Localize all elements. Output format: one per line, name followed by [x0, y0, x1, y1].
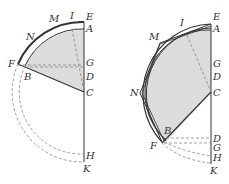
label-E: E [212, 11, 221, 22]
right-figure: E A G D C D G H K F B N M I [129, 11, 222, 176]
label-M: M [148, 31, 160, 42]
label-G: G [213, 58, 221, 69]
label-I: I [179, 17, 185, 28]
label-B: B [163, 125, 171, 136]
label-D: D [85, 71, 94, 82]
label-G: G [86, 57, 94, 68]
label-N: N [25, 31, 36, 42]
label-K: K [209, 165, 218, 176]
label-F: F [149, 140, 158, 151]
label-C: C [86, 87, 94, 98]
label-H: H [85, 150, 95, 161]
label-C: C [213, 87, 221, 98]
label-K: K [82, 163, 91, 174]
label-B: B [23, 71, 31, 82]
label-M: M [48, 13, 60, 24]
label-I: I [69, 10, 75, 21]
dash-arc-K [162, 143, 211, 163]
label-F: F [7, 58, 16, 69]
left-figure: E A G D C H K F B N M I [7, 10, 95, 174]
geometry-diagram: E A G D C H K F B N M I E A G [0, 0, 229, 184]
label-A: A [212, 23, 220, 34]
dash-arc-H [164, 142, 211, 156]
label-N: N [129, 87, 140, 98]
label-H: H [212, 152, 222, 163]
label-D: D [212, 71, 221, 82]
label-A: A [85, 23, 93, 34]
label-E: E [85, 11, 94, 22]
